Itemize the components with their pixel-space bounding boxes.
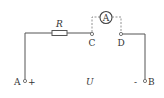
terminal-d [119,32,122,35]
terminal-c [90,32,93,35]
terminal-b-label: B [148,77,155,87]
dashed-c-to-ammeter [92,17,100,32]
terminal-a [23,79,26,82]
resistor [52,31,67,36]
terminal-b-polarity: - [134,77,137,87]
terminal-d-label: D [118,38,125,48]
circuit-diagram: R C A D A + U - B [0,0,164,98]
terminal-a-label: A [13,77,21,87]
ammeter-label: A [102,13,110,23]
wire-left [25,33,52,79]
voltage-label: U [86,77,94,87]
terminal-c-label: C [89,38,96,48]
wire-right [123,34,145,79]
terminal-b [143,79,146,82]
dashed-ammeter-to-d [112,17,121,32]
terminal-a-polarity: + [28,77,36,87]
resistor-label: R [55,19,63,29]
